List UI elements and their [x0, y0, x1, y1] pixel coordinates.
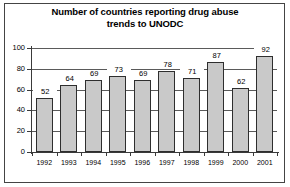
- gridline-100: [32, 48, 277, 49]
- x-tick-3: [106, 152, 107, 156]
- chart-title-line-2: trends to UNODC: [10, 18, 280, 30]
- x-axis-label-1998: 1998: [179, 159, 203, 167]
- bar-1992: [36, 98, 53, 152]
- y-axis-line: [31, 46, 32, 154]
- x-axis-line: [28, 152, 279, 153]
- value-label-1999: 87: [205, 52, 229, 60]
- y-tick-label-60: 60: [2, 86, 25, 94]
- value-label-2001: 92: [254, 46, 278, 54]
- x-tick-1: [57, 152, 58, 156]
- x-axis-label-1994: 1994: [81, 159, 105, 167]
- x-tick-4: [130, 152, 131, 156]
- bar-1993: [60, 85, 77, 152]
- x-tick-5: [155, 152, 156, 156]
- y-tick-label-80: 80: [2, 65, 25, 73]
- bar-1995: [109, 76, 126, 152]
- bar-1999: [207, 62, 224, 152]
- bar-1994: [85, 80, 102, 152]
- x-tick-10: [277, 152, 278, 156]
- value-label-2000: 62: [229, 78, 253, 86]
- chart-title-line-1: Number of countries reporting drug abuse: [51, 6, 238, 17]
- chart-title: Number of countries reporting drug abuse…: [10, 6, 280, 30]
- bar-1997: [158, 71, 175, 152]
- x-axis-label-1997: 1997: [155, 159, 179, 167]
- y-tick-80: [27, 69, 32, 70]
- x-axis-label-1992: 1992: [32, 159, 56, 167]
- x-tick-6: [179, 152, 180, 156]
- y-tick-20: [27, 131, 32, 132]
- x-axis-label-1995: 1995: [106, 159, 130, 167]
- x-tick-0: [32, 152, 33, 156]
- y-tick-40: [27, 110, 32, 111]
- value-label-1993: 64: [58, 75, 82, 83]
- x-tick-9: [253, 152, 254, 156]
- x-axis-label-1999: 1999: [204, 159, 228, 167]
- chart-figure: Number of countries reporting drug abuse…: [0, 0, 290, 187]
- x-tick-2: [81, 152, 82, 156]
- y-tick-label-40: 40: [2, 106, 25, 114]
- value-label-1994: 69: [82, 70, 106, 78]
- bar-1998: [183, 78, 200, 152]
- x-tick-7: [204, 152, 205, 156]
- bar-1996: [134, 80, 151, 152]
- value-label-1992: 52: [33, 88, 57, 96]
- value-label-1998: 71: [180, 68, 204, 76]
- x-axis-label-2001: 2001: [253, 159, 277, 167]
- value-label-1997: 78: [156, 61, 180, 69]
- x-axis-label-1993: 1993: [57, 159, 81, 167]
- y-tick-100: [27, 48, 32, 49]
- x-axis-label-1996: 1996: [130, 159, 154, 167]
- y-tick-label-0: 0: [2, 148, 25, 156]
- value-label-1995: 73: [107, 66, 131, 74]
- bar-2000: [232, 88, 249, 152]
- bar-2001: [256, 56, 273, 152]
- x-tick-8: [228, 152, 229, 156]
- x-axis-label-2000: 2000: [228, 159, 252, 167]
- y-tick-label-20: 20: [2, 127, 25, 135]
- y-tick-label-100: 100: [2, 44, 25, 52]
- value-label-1996: 69: [131, 70, 155, 78]
- y-tick-60: [27, 90, 32, 91]
